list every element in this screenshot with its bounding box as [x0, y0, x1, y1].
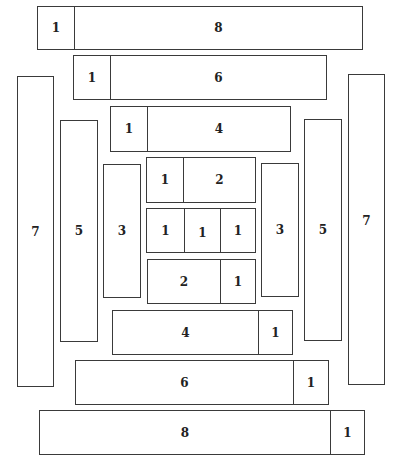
column-label: 3: [104, 165, 140, 297]
cell-label: 1: [74, 56, 110, 99]
left-column-5: 5: [60, 120, 98, 342]
top-bar-6: 1 6: [73, 55, 327, 100]
cell-label: 2: [183, 158, 255, 202]
cell-label: 1: [330, 411, 364, 454]
top-bar-8: 1 8: [37, 6, 363, 50]
bottom-bar-6: 6 1: [75, 360, 329, 405]
cell-label: 8: [74, 7, 362, 49]
cell-label: 6: [110, 56, 326, 99]
cell-label: 4: [113, 311, 258, 354]
right-column-7: 7: [348, 74, 385, 385]
right-column-5: 5: [304, 119, 342, 341]
cell-label: 1: [111, 107, 147, 151]
left-column-3: 3: [103, 164, 141, 298]
cell-label: 2: [148, 260, 220, 303]
cell-label: 1: [184, 209, 220, 252]
cell-label: 1: [220, 209, 255, 252]
cell-label: 4: [147, 107, 290, 151]
cell-label: 8: [40, 411, 330, 454]
bottom-bar-4: 4 1: [112, 310, 293, 355]
column-label: 5: [305, 120, 341, 340]
column-label: 5: [61, 121, 97, 341]
cell-label: 1: [258, 311, 292, 354]
top-bar-4: 1 4: [110, 106, 291, 152]
center-row-1: 1 2: [146, 157, 256, 203]
cell-label: 6: [76, 361, 293, 404]
column-label: 7: [18, 77, 53, 386]
right-column-3: 3: [261, 163, 299, 297]
cell-label: 1: [147, 158, 183, 202]
column-label: 3: [262, 164, 298, 296]
bottom-bar-8: 8 1: [39, 410, 365, 455]
column-label: 7: [349, 75, 384, 366]
cell-label: 1: [38, 7, 74, 49]
center-row-3: 2 1: [147, 259, 256, 304]
center-row-2: 1 1 1: [146, 208, 256, 253]
cell-label: 1: [220, 260, 255, 303]
cell-label: 1: [293, 361, 328, 404]
left-column-7: 7: [17, 76, 54, 387]
cell-label: 1: [147, 209, 184, 252]
